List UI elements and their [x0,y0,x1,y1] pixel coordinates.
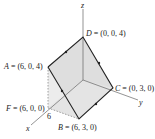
z-axis-label: z [80,1,85,10]
label-A: A = (6, 0, 4) [3,62,43,71]
x-axis-label: x [25,124,30,133]
wedge-diagram: z y x 6 D = (0, 0, 4) A = (6, 0, 4) C = … [0,0,155,139]
arrow-dc [98,62,100,64]
arrow-ba [61,90,63,92]
label-C: C = (0, 3, 0) [115,84,155,93]
label-D: D = (0, 0, 4) [85,29,126,38]
arrow-cb [95,103,97,105]
label-B: B = (6, 3, 0) [58,123,97,132]
arrow-ad [65,51,67,53]
label-F: F = (6, 0, 0) [5,104,45,113]
y-axis-label: y [138,98,143,107]
x-tick-6: 6 [47,112,51,121]
